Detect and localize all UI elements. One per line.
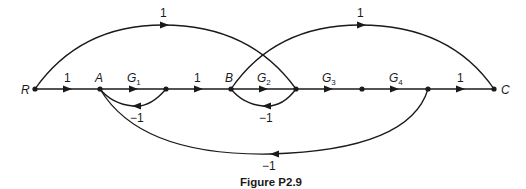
arrow-arc2	[357, 22, 366, 29]
gain-G1: G1	[127, 71, 141, 87]
gain-arc2: 1	[357, 6, 364, 20]
gain-arc1: 1	[160, 6, 167, 20]
label-B: B	[225, 71, 233, 85]
arrow-R-A	[63, 86, 72, 93]
gain-R-A: 1	[64, 71, 71, 85]
gain-feedback-A: −1	[130, 111, 144, 125]
arrow-n7-C	[456, 86, 465, 93]
node-C	[491, 86, 496, 91]
gain-n7-C: 1	[457, 71, 464, 85]
node-A	[97, 86, 102, 91]
gain-G3: G3	[322, 71, 336, 87]
figure-caption: Figure P2.9	[240, 176, 302, 188]
label-R: R	[21, 83, 30, 97]
node-n5	[293, 86, 298, 91]
arrow-feedback-big	[270, 151, 279, 158]
signal-flow-graph: R A B C 1 G1 1 G2 G3 G4 1 1 1 −1 −1 −1 F…	[0, 0, 526, 189]
feedback-n5-B	[231, 89, 296, 106]
gain-feedback-big: −1	[262, 159, 276, 173]
arrow-arc1	[160, 22, 169, 29]
gain-feedback-B: −1	[259, 111, 273, 125]
node-B	[228, 86, 233, 91]
label-A: A	[94, 71, 103, 85]
node-R	[32, 86, 37, 91]
node-n3	[163, 86, 168, 91]
arrow-feedback-B	[262, 103, 271, 110]
arrow-feedback-A	[132, 103, 141, 110]
gain-n3-B: 1	[194, 71, 201, 85]
node-n7	[425, 86, 430, 91]
forward-path	[35, 86, 494, 93]
arrow-n3-B	[194, 86, 203, 93]
gain-G4: G4	[389, 71, 403, 87]
gain-G2: G2	[257, 71, 271, 87]
label-C: C	[501, 83, 510, 97]
node-n6	[359, 86, 364, 91]
